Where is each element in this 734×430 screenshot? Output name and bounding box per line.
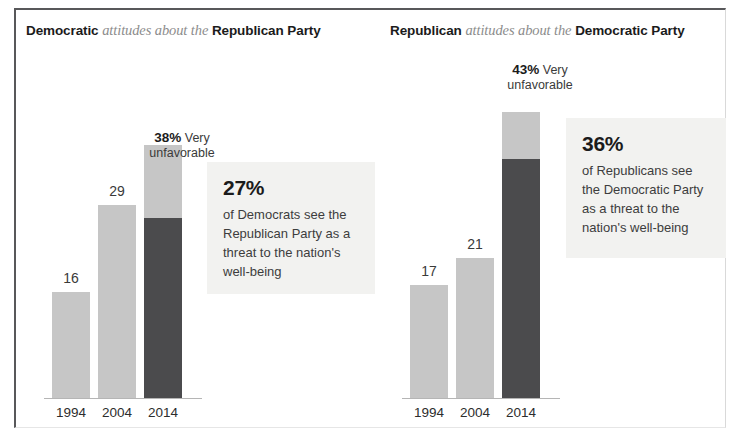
callout-body: of Democrats see the Republican Party as…	[223, 205, 361, 281]
callout-percent: 36%	[582, 132, 712, 156]
figure-container: Democratic attitudes about the Republica…	[0, 0, 734, 430]
bar-1994	[52, 292, 90, 398]
bar-segment-unfavorable	[410, 285, 448, 398]
bar-segment-unfavorable	[502, 112, 540, 159]
callout-line-1: of Republicans see	[582, 163, 693, 178]
top-annotation-pct: 43%	[512, 62, 539, 77]
callout-line-2: the Democratic Party	[582, 182, 703, 197]
bar-segment-very-unfavorable	[502, 159, 540, 398]
top-annotation-very-unfavorable: 38% Very unfavorable	[122, 130, 242, 161]
bar-2004	[456, 258, 494, 398]
bar-segment-unfavorable	[52, 292, 90, 398]
callout-line-2: Republican Party as a	[223, 226, 350, 241]
callout-line-3: threat to the nation's	[223, 245, 340, 260]
top-annotation-line2: unfavorable	[149, 146, 214, 160]
bar-value-label-2004: 21	[445, 236, 505, 252]
callout-line-1: of Democrats see the	[223, 207, 347, 222]
x-axis-line	[44, 398, 202, 399]
bar-value-label-1994: 17	[399, 263, 459, 279]
callout-line-4: nation's well-being	[582, 220, 689, 235]
bar-segment-very-unfavorable	[144, 218, 182, 398]
x-tick-2014: 2014	[133, 405, 193, 420]
bar-value-label-1994: 16	[41, 270, 101, 286]
top-annotation-pct: 38%	[154, 130, 181, 145]
callout-percent: 27%	[223, 176, 361, 200]
bar-2014	[144, 145, 182, 398]
top-annotation-line2: unfavorable	[507, 78, 572, 92]
callout-democrats: 27% of Democrats see the Republican Part…	[207, 162, 375, 294]
bar-2004	[98, 205, 136, 398]
x-axis-line	[402, 398, 560, 399]
bar-segment-unfavorable	[456, 258, 494, 398]
callout-body: of Republicans see the Democratic Party …	[582, 161, 712, 237]
bar-segment-unfavorable	[98, 205, 136, 398]
callout-line-4: well-being	[223, 264, 282, 279]
bar-value-label-2004: 29	[87, 183, 147, 199]
top-annotation-text: Very	[181, 131, 210, 145]
callout-line-3: as a threat to the	[582, 201, 680, 216]
top-annotation-very-unfavorable: 43% Very unfavorable	[480, 62, 600, 93]
bar-2014	[502, 112, 540, 398]
callout-republicans: 36% of Republicans see the Democratic Pa…	[566, 118, 726, 258]
bar-1994	[410, 285, 448, 398]
top-annotation-text: Very	[539, 63, 568, 77]
x-tick-2014: 2014	[491, 405, 551, 420]
